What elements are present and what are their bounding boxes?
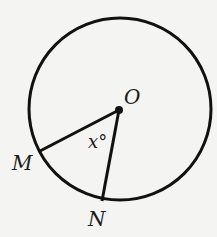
label-n: N xyxy=(87,207,107,231)
radius-on xyxy=(102,110,119,201)
angle-label-x: x° xyxy=(88,131,107,152)
diagram-canvas: O M N x° xyxy=(0,0,217,237)
center-point-o xyxy=(115,106,123,114)
label-o: O xyxy=(124,85,140,109)
circle-diagram: O M N x° xyxy=(0,0,217,237)
label-m: M xyxy=(11,151,33,175)
